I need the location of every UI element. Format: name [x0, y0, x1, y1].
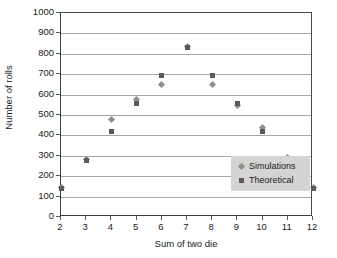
x-tick-mark [236, 216, 237, 220]
x-tick-mark [110, 216, 111, 220]
x-tick-mark [262, 216, 263, 220]
x-tick-label: 7 [174, 222, 198, 232]
x-tick-mark [60, 216, 61, 220]
x-tick-label: 2 [48, 222, 72, 232]
x-tick-label: 12 [300, 222, 324, 232]
x-tick-label: 8 [199, 222, 223, 232]
x-axis-title: Sum of two die [60, 238, 312, 249]
x-tick-mark [136, 216, 137, 220]
x-tick-label: 3 [73, 222, 97, 232]
x-tick-mark [287, 216, 288, 220]
scatter-chart: Simulations Theoretical 0100200300400500… [0, 0, 337, 258]
x-tick-label: 5 [124, 222, 148, 232]
x-tick-label: 11 [275, 222, 299, 232]
x-tick-label: 9 [224, 222, 248, 232]
x-tick-mark [312, 216, 313, 220]
x-tick-mark [186, 216, 187, 220]
x-axis: 23456789101112 [0, 0, 337, 258]
x-tick-label: 6 [149, 222, 173, 232]
x-tick-mark [85, 216, 86, 220]
x-tick-mark [161, 216, 162, 220]
y-axis-title: Number of rolls [3, 38, 14, 158]
x-tick-mark [211, 216, 212, 220]
x-tick-label: 4 [98, 222, 122, 232]
x-tick-label: 10 [250, 222, 274, 232]
